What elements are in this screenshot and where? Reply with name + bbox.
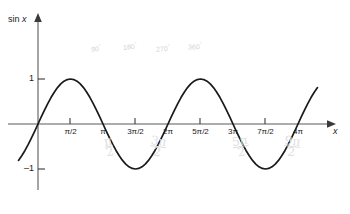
sine-plot-figure: sin x x 1–1 π/2π3π/22π5π/23π7π/24π 90°18…	[0, 0, 350, 214]
y-axis-arrowhead	[34, 13, 42, 22]
y-axis-label: sin x	[8, 15, 27, 24]
pencil-annotation: 9π2	[282, 135, 300, 159]
degree-annotation: 360°	[188, 42, 202, 51]
degree-annotation-value: 180	[123, 43, 135, 51]
x-axis-label: x	[333, 127, 338, 136]
y-axis-label-var: x	[22, 14, 27, 24]
degree-symbol: °	[200, 41, 202, 47]
pencil-annotation: 5π2	[231, 135, 250, 159]
pencil-annotation-denominator: 2	[105, 146, 115, 159]
y-axis-label-fn: sin	[8, 14, 20, 24]
degree-annotation: 270°	[155, 44, 169, 53]
plot-canvas	[0, 0, 350, 214]
y-tick-label: 1	[14, 74, 34, 83]
degree-annotation-value: 270	[155, 45, 167, 53]
degree-symbol: °	[98, 42, 101, 48]
degree-annotation-value: 90	[90, 45, 99, 53]
degree-symbol: °	[167, 43, 169, 49]
degree-annotation: 90°	[90, 43, 101, 53]
degree-annotation-value: 360	[188, 43, 200, 50]
degree-annotation: 180°	[123, 41, 137, 51]
y-tick-label: –1	[14, 164, 34, 173]
y-axis	[34, 13, 42, 190]
